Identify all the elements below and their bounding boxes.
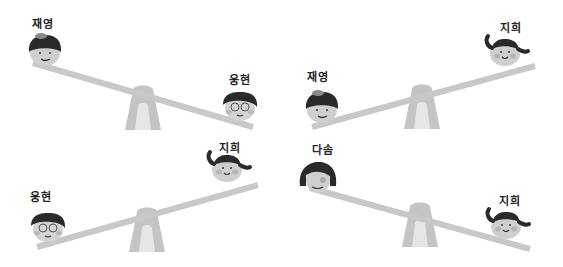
label-woonghyun: 웅현 xyxy=(229,71,250,87)
child-jaeyoung-icon xyxy=(29,33,61,66)
seesaw-bottom-left xyxy=(31,152,258,252)
seesaw-top-left xyxy=(29,33,257,130)
label-jihee: 지희 xyxy=(499,192,520,208)
label-dasom: 다솜 xyxy=(312,141,333,157)
child-jihee-icon xyxy=(487,36,528,66)
child-jihee-icon xyxy=(209,152,250,182)
seesaw-bottom-right xyxy=(300,162,530,249)
label-jaeyoung: 재영 xyxy=(32,15,53,31)
child-jihee-icon xyxy=(488,209,529,239)
label-jaeyoung: 재영 xyxy=(307,68,328,84)
seesaw-top-right xyxy=(306,36,535,129)
seesaw-illustration xyxy=(0,0,563,267)
child-dasom-icon xyxy=(300,162,336,193)
child-jaeyoung-icon xyxy=(306,90,338,123)
label-woonghyun: 웅현 xyxy=(30,188,51,204)
label-jihee: 지희 xyxy=(500,19,521,35)
label-jihee: 지희 xyxy=(219,139,240,155)
